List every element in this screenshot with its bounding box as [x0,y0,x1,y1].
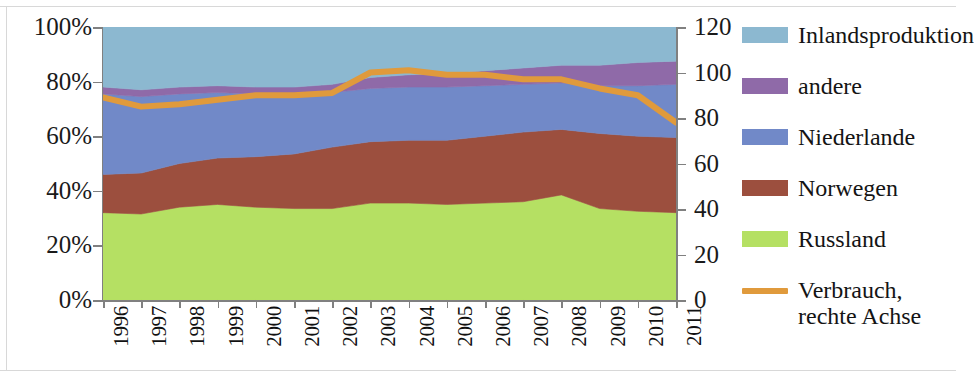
x-axis-line [102,300,678,302]
x-axis-tick-label: 1996 [111,306,132,347]
page-border-top [0,6,956,7]
right-axis-tick-label: 20 [694,242,719,267]
right-axis-tick [676,27,686,29]
left-axis-tick-label: 80% [46,69,92,94]
legend-label: Inlandsproduktion [798,22,974,48]
x-axis-tick-label: 2008 [569,306,590,347]
left-axis-tick-label: 40% [46,178,92,203]
legend-label: Niederlande [798,124,915,150]
legend-label: Verbrauch, rechte Achse [798,277,921,329]
chart-legend: InlandsproduktionandereNiederlandeNorweg… [742,22,956,329]
page-border-left [6,6,7,371]
legend-swatch-icon [742,231,788,247]
x-axis-tick-label: 1998 [187,306,208,347]
legend-label: andere [798,73,862,99]
right-axis-line [676,27,678,301]
left-axis-tick-label: 20% [46,232,92,257]
x-axis-tick-label: 2005 [455,306,476,347]
legend-swatch-icon [742,288,788,294]
legend-item[interactable]: Inlandsproduktion [742,22,956,48]
right-axis-tick [676,164,686,166]
right-axis-tick-label: 60 [694,151,719,176]
legend-item[interactable]: Verbrauch, rechte Achse [742,277,956,329]
plot-area [103,27,676,300]
x-axis-tick-label: 2003 [378,306,399,347]
right-axis-tick [676,255,686,257]
legend-label: Norwegen [798,175,898,201]
x-axis-tick-label: 2010 [646,306,667,347]
right-axis-tick [676,73,686,75]
legend-item[interactable]: Norwegen [742,175,956,201]
right-axis-tick [676,118,686,120]
legend-swatch-icon [742,27,788,43]
x-axis-tick-label: 2004 [417,306,438,347]
area-series-russland [103,195,676,300]
x-axis-tick-label: 2011 [684,306,705,346]
right-axis-tick-label: 80 [694,105,719,130]
legend-swatch-icon [742,129,788,145]
legend-item[interactable]: Niederlande [742,124,956,150]
legend-swatch-icon [742,78,788,94]
left-axis-tick-label: 100% [34,14,92,39]
x-axis-tick-label: 2006 [493,306,514,347]
stacked-area-svg [103,27,676,300]
legend-item[interactable]: andere [742,73,956,99]
x-axis-tick-label: 2007 [531,306,552,347]
left-axis-tick-label: 0% [59,287,92,312]
x-axis-tick-label: 2002 [340,306,361,347]
x-axis-tick-label: 1997 [149,306,170,347]
right-axis-tick-label: 40 [694,196,719,221]
right-axis-tick [676,209,686,211]
right-axis-tick-label: 120 [694,14,732,39]
x-axis-tick-label: 2009 [608,306,629,347]
x-axis-tick-label: 2000 [264,306,285,347]
page-border-bottom [0,370,956,371]
legend-swatch-icon [742,180,788,196]
x-axis-tick-label: 2001 [302,306,323,347]
legend-item[interactable]: Russland [742,226,956,252]
right-axis-tick-label: 100 [694,60,732,85]
legend-label: Russland [798,226,886,252]
left-axis-tick-label: 60% [46,123,92,148]
x-axis-tick-label: 1999 [226,306,247,347]
